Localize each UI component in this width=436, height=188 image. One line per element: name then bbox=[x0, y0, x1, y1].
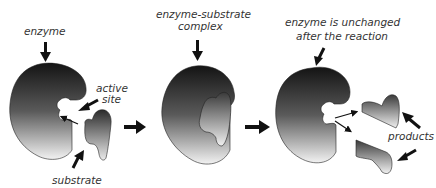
product-2-shape bbox=[356, 140, 392, 174]
product-arrow-upper bbox=[402, 112, 420, 128]
active-site-label-line2: site bbox=[102, 93, 121, 105]
active-site-arrow bbox=[78, 100, 98, 111]
product-arrow-lower bbox=[397, 150, 416, 161]
unchanged-label-line2: after the reaction bbox=[296, 30, 388, 42]
enzyme-pointer-arrow bbox=[40, 42, 51, 62]
complex-label-line2: complex bbox=[178, 20, 223, 32]
enzyme-label: enzyme bbox=[24, 25, 66, 37]
process-arrow-1 bbox=[124, 120, 146, 134]
enzyme-released-shape bbox=[276, 67, 350, 163]
release-arrow-lower bbox=[335, 121, 350, 131]
enzyme-diagram: enzyme active site substrate enzyme-subs… bbox=[0, 0, 436, 188]
release-arrow-upper bbox=[335, 112, 356, 118]
process-arrow-2 bbox=[245, 120, 270, 134]
complex-pointer-arrow bbox=[192, 40, 203, 61]
enzyme-shape bbox=[10, 63, 86, 159]
product-1-shape bbox=[362, 95, 399, 128]
unchanged-pointer-arrow bbox=[314, 48, 324, 66]
products-label: products bbox=[387, 130, 435, 142]
substrate-arrow bbox=[73, 150, 84, 168]
complex-label-line1: enzyme-substrate bbox=[156, 8, 251, 20]
unchanged-label-line1: enzyme is unchanged bbox=[285, 16, 401, 28]
substrate-shape bbox=[85, 110, 111, 160]
substrate-label: substrate bbox=[52, 174, 102, 186]
